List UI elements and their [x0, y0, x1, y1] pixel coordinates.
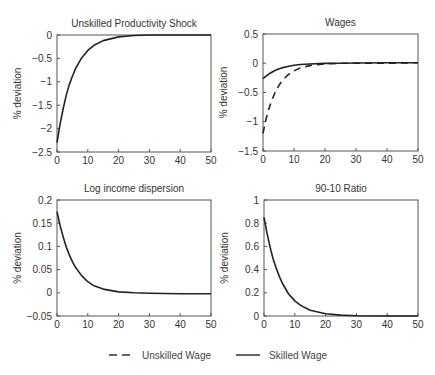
y-axis-label: % deviation: [12, 232, 23, 284]
plot-frame: [57, 200, 211, 316]
x-tick-label: 0: [54, 155, 60, 166]
y-axis-label: % deviation: [219, 232, 230, 284]
chart-wages: Wages% deviation010203040500.50−0.5−1−1.…: [218, 17, 424, 165]
x-tick-label: 20: [319, 154, 331, 165]
chart-title: 90-10 Ratio: [315, 183, 367, 194]
y-tick-label: −1.5: [238, 146, 258, 157]
x-tick-label: 50: [205, 155, 217, 166]
y-tick-label: −2.5: [32, 147, 52, 158]
x-tick-label: 10: [289, 319, 301, 330]
plot-frame: [57, 35, 211, 152]
x-tick-label: 30: [144, 155, 156, 166]
y-tick-label: −1: [247, 116, 259, 127]
chart-log-income-dispersion: Log income dispersion% deviation01020304…: [12, 183, 217, 330]
legend-label: Skilled Wage: [269, 350, 327, 361]
chart-title: Unskilled Productivity Shock: [71, 18, 198, 29]
series-90-10-ratio: [264, 217, 418, 316]
y-tick-label: 0.5: [244, 29, 258, 40]
y-tick-label: 0.15: [33, 218, 53, 229]
x-tick-label: 0: [261, 319, 267, 330]
x-tick-label: 10: [288, 154, 300, 165]
y-tick-label: 0.1: [38, 241, 52, 252]
y-tick-label: −0.05: [27, 311, 53, 322]
x-tick-label: 0: [54, 319, 60, 330]
legend-label: Unskilled Wage: [142, 350, 211, 361]
plot-frame: [263, 34, 418, 151]
y-tick-label: 0.4: [245, 264, 259, 275]
plot-frame: [264, 200, 418, 316]
series-shock: [57, 35, 211, 143]
legend: Unskilled Wage Skilled Wage: [0, 345, 435, 365]
x-tick-label: 20: [113, 319, 125, 330]
y-tick-label: 0.8: [245, 218, 259, 229]
y-tick-label: 0.2: [38, 195, 52, 206]
y-tick-label: 0.6: [245, 241, 259, 252]
y-tick-label: −1: [41, 76, 53, 87]
y-tick-label: 0: [252, 58, 258, 69]
x-tick-label: 40: [382, 319, 394, 330]
x-tick-label: 30: [350, 154, 362, 165]
y-tick-label: 1: [253, 195, 259, 206]
y-tick-label: 0: [46, 287, 52, 298]
x-tick-label: 40: [175, 155, 187, 166]
y-axis-label: % deviation: [218, 67, 229, 119]
y-axis-label: % deviation: [12, 68, 23, 120]
y-tick-label: 0.05: [33, 264, 53, 275]
y-tick-label: −2: [41, 123, 53, 134]
y-tick-label: 0: [253, 311, 259, 322]
x-tick-label: 0: [260, 154, 266, 165]
series-dispersion: [57, 212, 211, 294]
series-unskilled-wage: [263, 63, 418, 134]
chart-90-10-ratio: 90-10 Ratio% deviation0102030405010.80.6…: [219, 183, 424, 330]
x-tick-label: 50: [412, 319, 424, 330]
y-tick-label: −0.5: [238, 87, 258, 98]
x-tick-label: 20: [320, 319, 332, 330]
x-tick-label: 30: [351, 319, 363, 330]
legend-item-skilled-wage: Skilled Wage: [235, 350, 327, 361]
x-tick-label: 40: [381, 154, 393, 165]
chart-unskilled-productivity-shock: Unskilled Productivity Shock% deviation0…: [12, 18, 217, 166]
x-tick-label: 30: [144, 319, 156, 330]
y-tick-label: −0.5: [32, 53, 52, 64]
figure-canvas: Unskilled Productivity Shock% deviation0…: [0, 0, 435, 375]
x-tick-label: 40: [175, 319, 187, 330]
dashed-line-icon: [108, 350, 134, 360]
y-tick-label: 0.2: [245, 287, 259, 298]
x-tick-label: 50: [205, 319, 217, 330]
x-tick-label: 20: [113, 155, 125, 166]
y-tick-label: −1.5: [32, 100, 52, 111]
solid-line-icon: [235, 350, 261, 360]
legend-item-unskilled-wage: Unskilled Wage: [108, 350, 211, 361]
chart-title: Wages: [325, 17, 356, 28]
y-tick-label: 0: [46, 30, 52, 41]
chart-title: Log income dispersion: [84, 183, 184, 194]
x-tick-label: 10: [82, 319, 94, 330]
x-tick-label: 50: [412, 154, 424, 165]
x-tick-label: 10: [82, 155, 94, 166]
